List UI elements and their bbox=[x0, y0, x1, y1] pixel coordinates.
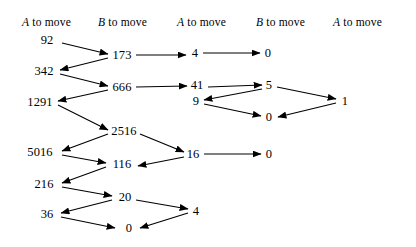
column-header-text: to move bbox=[263, 16, 305, 28]
arrow-1291-to-2516 bbox=[58, 105, 108, 130]
arrow-16-to-116 bbox=[138, 157, 184, 166]
tree-node-n92: 92 bbox=[41, 33, 54, 48]
arrow-116-to-216 bbox=[62, 167, 106, 183]
tree-node-n116: 116 bbox=[113, 157, 132, 172]
arrow-36-to-0b bbox=[61, 217, 115, 228]
tree-node-n342: 342 bbox=[34, 64, 53, 79]
arrow-5-to-9 bbox=[204, 89, 262, 100]
column-header-col5: A to move bbox=[333, 16, 382, 28]
tree-node-n0c: 0 bbox=[265, 46, 271, 61]
column-header-text: to move bbox=[184, 16, 226, 28]
arrow-20-to-4b bbox=[136, 200, 188, 209]
tree-node-n216: 216 bbox=[34, 177, 53, 192]
arrow-666-to-41 bbox=[136, 86, 187, 87]
tree-node-n173: 173 bbox=[112, 48, 131, 63]
column-header-text: to move bbox=[340, 16, 382, 28]
game-tree-diagram: A to moveB to moveA to moveB to moveA to… bbox=[0, 0, 416, 247]
tree-node-n666: 666 bbox=[112, 80, 131, 95]
column-header-text: to move bbox=[29, 16, 71, 28]
column-header-col2: B to move bbox=[98, 16, 147, 28]
arrow-173-to-342 bbox=[60, 58, 108, 70]
edge-layer bbox=[0, 0, 416, 247]
arrow-2516-to-16 bbox=[140, 134, 184, 152]
tree-node-n1291: 1291 bbox=[27, 95, 52, 110]
arrow-41-to-5 bbox=[208, 85, 262, 87]
arrow-5-to-1 bbox=[277, 87, 336, 99]
tree-node-n2516: 2516 bbox=[111, 124, 136, 139]
arrow-20-to-36 bbox=[61, 200, 112, 213]
tree-node-n5: 5 bbox=[266, 78, 272, 93]
tree-node-n0b: 0 bbox=[126, 221, 132, 236]
tree-node-n9: 9 bbox=[193, 94, 199, 109]
column-header-col3: A to move bbox=[177, 16, 226, 28]
tree-node-n36: 36 bbox=[41, 207, 54, 222]
arrow-1-to-0d bbox=[278, 103, 336, 117]
tree-node-n4a: 4 bbox=[192, 46, 198, 61]
arrow-group bbox=[58, 43, 336, 228]
arrow-216-to-20 bbox=[62, 187, 112, 196]
arrow-5016-to-116 bbox=[62, 155, 106, 163]
tree-node-n0e: 0 bbox=[266, 147, 272, 162]
arrow-342-to-666 bbox=[60, 74, 108, 86]
arrow-666-to-1291 bbox=[58, 90, 108, 101]
column-header-text: to move bbox=[105, 16, 147, 28]
column-header-col1: A to move bbox=[22, 16, 71, 28]
tree-node-n20: 20 bbox=[119, 190, 132, 205]
arrow-92-to-173 bbox=[62, 43, 108, 54]
arrow-4b-to-0b bbox=[140, 213, 188, 228]
tree-node-n1: 1 bbox=[342, 94, 348, 109]
tree-node-n5016: 5016 bbox=[27, 145, 52, 160]
column-header-col4: B to move bbox=[256, 16, 305, 28]
tree-node-n4b: 4 bbox=[193, 204, 199, 219]
tree-node-n16: 16 bbox=[187, 147, 200, 162]
tree-node-n41: 41 bbox=[191, 78, 204, 93]
arrow-9-to-0d bbox=[204, 104, 261, 116]
arrow-2516-to-5016 bbox=[62, 134, 108, 151]
tree-node-n0d: 0 bbox=[266, 110, 272, 125]
